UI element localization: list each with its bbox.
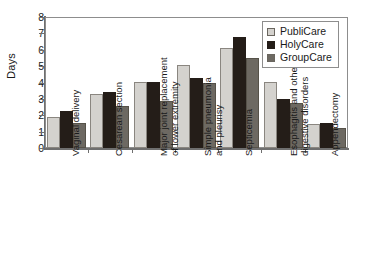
y-tick-mark (39, 148, 45, 149)
legend-item[interactable]: GroupCare (267, 51, 332, 64)
legend-label: HolyCare (280, 38, 324, 51)
x-axis-label: Vaginal delivery (71, 36, 82, 156)
bar[interactable] (264, 82, 277, 148)
x-tick-mark (132, 148, 133, 153)
legend-label: GroupCare (280, 51, 332, 64)
x-axis-label: Cesarean section (114, 36, 125, 156)
bar[interactable] (90, 94, 103, 148)
legend-swatch-icon (267, 54, 275, 62)
legend-swatch-icon (267, 28, 275, 36)
y-axis-title: Days (5, 41, 17, 91)
x-tick-mark (88, 148, 89, 153)
legend-item[interactable]: PubliCare (267, 25, 332, 38)
bar[interactable] (47, 117, 60, 148)
x-tick-mark (261, 148, 262, 153)
x-axis-label: Major joint replacement of lower extremi… (159, 36, 180, 156)
legend-label: PubliCare (280, 25, 326, 38)
legend-item[interactable]: HolyCare (267, 38, 332, 51)
x-axis-label: Septicemia (244, 36, 255, 156)
bar[interactable] (134, 82, 147, 148)
legend-swatch-icon (267, 41, 275, 49)
bar-chart: Days 012345678 Vaginal deliveryCesarean … (0, 0, 366, 280)
legend: PubliCare HolyCare GroupCare (262, 21, 339, 68)
x-axis-label: Simple pneumonia and pleurisy (203, 36, 224, 156)
